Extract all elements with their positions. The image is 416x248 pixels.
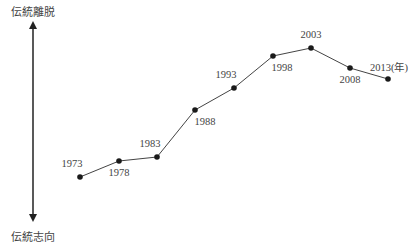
point-label-1978: 1978: [109, 167, 130, 178]
data-point-2008: [347, 65, 353, 71]
data-point-1973: [77, 174, 83, 180]
point-label-1998: 1998: [272, 62, 293, 73]
data-point-1983: [154, 154, 160, 160]
point-label-2003: 2003: [301, 29, 322, 40]
point-label-1988: 1988: [195, 116, 216, 127]
line-chart: 197319781983198819931998200320082013(年): [0, 0, 416, 248]
data-point-1988: [192, 107, 198, 113]
point-label-1993: 1993: [216, 69, 237, 80]
data-point-2013: [385, 76, 391, 82]
point-label-1973: 1973: [62, 158, 83, 169]
point-label-1983: 1983: [140, 138, 161, 149]
trend-line: [80, 48, 388, 177]
data-point-1978: [116, 158, 122, 164]
data-point-1993: [231, 85, 237, 91]
data-point-1998: [270, 53, 276, 59]
point-label-2008: 2008: [340, 74, 361, 85]
point-label-2013: 2013(年): [370, 61, 408, 74]
data-points: 197319781983198819931998200320082013(年): [62, 29, 409, 180]
data-point-2003: [308, 45, 314, 51]
